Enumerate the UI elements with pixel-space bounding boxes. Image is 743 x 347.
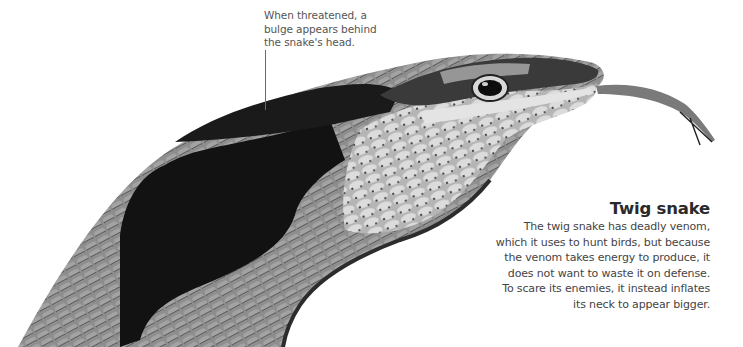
twig-snake-info: Twig snake The twig snake has deadly ven… (450, 199, 710, 312)
callout-line: bulge appears behind (264, 23, 424, 37)
info-line: The twig snake has deadly venom, (450, 219, 710, 235)
info-line: its neck to appear bigger. (450, 297, 710, 313)
info-line: the venom takes energy to produce, it (450, 250, 710, 266)
info-line: which it uses to hunt birds, but because (450, 235, 710, 251)
callout-line: the snake's head. (264, 36, 424, 50)
info-title: Twig snake (450, 199, 710, 218)
info-line: does not want to waste it on defense. (450, 266, 710, 282)
bulge-callout: When threatened, a bulge appears behind … (264, 9, 424, 50)
info-line: To scare its enemies, it instead inflate… (450, 281, 710, 297)
callout-line: When threatened, a (264, 9, 424, 23)
callout-leader-line (265, 50, 266, 110)
